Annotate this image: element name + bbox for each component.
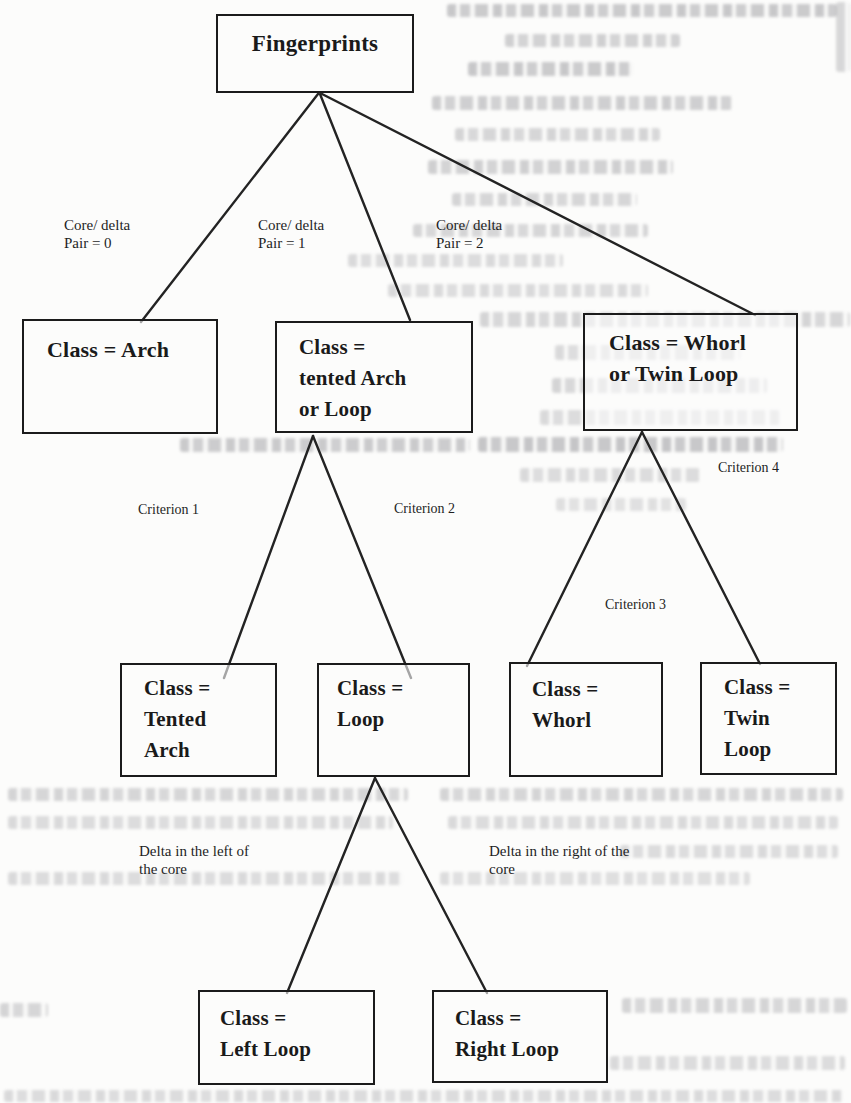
edge-label-line: core — [489, 860, 629, 878]
edge-to-right-loop — [375, 778, 487, 993]
edge-root-to-arch — [141, 94, 318, 322]
node-label-line: Class = Arch — [47, 334, 216, 365]
node-label-line: Class = — [455, 1003, 606, 1034]
bleed-through-artifact — [4, 1090, 844, 1102]
node-label-line: Loop — [724, 734, 835, 765]
node-class-twin-loop: Class = Twin Loop — [700, 662, 837, 775]
node-label-line: Class = — [532, 674, 661, 705]
node-label-line: Arch — [144, 735, 275, 766]
edge-label-core-delta-pair-2: Core/ delta Pair = 2 — [436, 216, 502, 252]
edge-to-loop — [313, 436, 411, 678]
node-class-left-loop: Class = Left Loop — [198, 990, 375, 1085]
edge-label-line: Delta in the left of — [139, 842, 249, 860]
bleed-through-artifact — [836, 2, 850, 72]
node-class-whorl: Class = Whorl — [509, 662, 663, 777]
edge-label-line: Pair = 0 — [64, 234, 130, 252]
bleed-through-artifact — [447, 4, 837, 17]
bleed-through-artifact — [388, 284, 648, 297]
tree-edges — [0, 0, 851, 1103]
bleed-through-artifact — [622, 998, 847, 1013]
edge-label-criterion-4: Criterion 4 — [718, 459, 779, 477]
bleed-through-artifact — [455, 128, 660, 141]
scanned-diagram-page: Fingerprints Class = Arch Class = tented… — [0, 0, 851, 1103]
bleed-through-artifact — [448, 816, 838, 829]
bleed-through-artifact — [432, 96, 732, 110]
edge-label-criterion-2: Criterion 2 — [394, 500, 455, 518]
bleed-through-artifact — [180, 438, 470, 452]
node-class-arch: Class = Arch — [22, 319, 218, 434]
bleed-through-artifact — [8, 816, 393, 829]
edge-label-line: Core/ delta — [64, 216, 130, 234]
node-class-right-loop: Class = Right Loop — [432, 990, 608, 1083]
edge-to-left-loop — [287, 778, 375, 993]
edge-label-line: Core/ delta — [436, 216, 502, 234]
node-label-line: Class = Whorl — [609, 327, 796, 358]
edge-to-tented-arch — [224, 436, 313, 678]
edge-label-line: Delta in the right of the — [489, 842, 629, 860]
node-label-line: Class = — [337, 673, 468, 704]
edge-label-delta-left: Delta in the left of the core — [139, 842, 249, 878]
node-class-tented-arch-or-loop: Class = tented Arch or Loop — [275, 321, 473, 433]
edge-label-criterion-1: Criterion 1 — [138, 501, 199, 519]
node-label-line: Loop — [337, 704, 468, 735]
edge-label-line: the core — [139, 860, 249, 878]
edge-label-core-delta-pair-1: Core/ delta Pair = 1 — [258, 216, 324, 252]
bleed-through-artifact — [478, 437, 783, 452]
bleed-through-artifact — [520, 468, 700, 482]
bleed-through-artifact — [468, 62, 633, 76]
edge-label-core-delta-pair-0: Core/ delta Pair = 0 — [64, 216, 130, 252]
node-label-line: Whorl — [532, 705, 661, 736]
node-class-tented-arch: Class = Tented Arch — [120, 663, 277, 777]
bleed-through-artifact — [428, 160, 673, 174]
edge-label-line: Criterion 1 — [138, 502, 199, 517]
bleed-through-artifact — [505, 34, 680, 47]
node-label-line: Class = — [144, 673, 275, 704]
node-label-line: tented Arch — [299, 363, 471, 394]
edge-label-delta-right: Delta in the right of the core — [489, 842, 629, 878]
node-label-line: Right Loop — [455, 1034, 606, 1065]
node-fingerprints: Fingerprints — [216, 14, 414, 93]
edge-label-line: Criterion 2 — [394, 501, 455, 516]
bleed-through-artifact — [610, 1056, 845, 1070]
bleed-through-artifact — [452, 193, 637, 206]
bleed-through-artifact — [440, 788, 843, 801]
bleed-through-artifact — [556, 498, 686, 511]
edge-label-line: Criterion 3 — [605, 597, 666, 612]
edge-label-criterion-3: Criterion 3 — [605, 596, 666, 614]
edge-label-line: Pair = 2 — [436, 234, 502, 252]
node-label-line: or Loop — [299, 394, 471, 425]
node-label-line: or Twin Loop — [609, 358, 796, 389]
bleed-through-artifact — [620, 845, 838, 858]
edge-label-line: Criterion 4 — [718, 460, 779, 475]
node-label-line: Class = — [220, 1003, 373, 1034]
bleed-through-artifact — [8, 788, 408, 801]
edge-label-line: Pair = 1 — [258, 234, 324, 252]
bleed-through-artifact — [0, 1003, 48, 1017]
node-label-line: Class = — [299, 332, 471, 363]
node-label-line: Tented — [144, 704, 275, 735]
node-class-loop: Class = Loop — [317, 663, 470, 777]
node-label-line: Left Loop — [220, 1034, 373, 1065]
bleed-through-artifact — [348, 254, 563, 267]
node-class-whorl-or-twin-loop: Class = Whorl or Twin Loop — [583, 313, 798, 431]
node-label-line: Twin — [724, 703, 835, 734]
node-label-line: Fingerprints — [218, 28, 412, 59]
edge-label-line: Core/ delta — [258, 216, 324, 234]
node-label-line: Class = — [724, 672, 835, 703]
